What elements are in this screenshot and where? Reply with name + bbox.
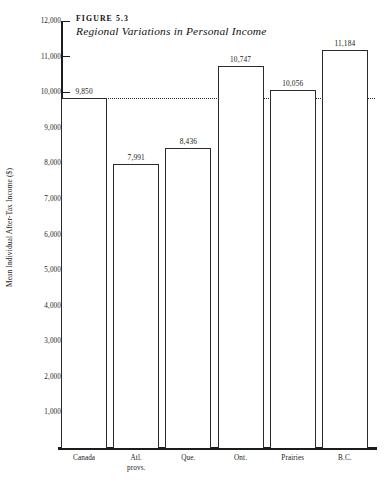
figure-number: FIGURE 5.3	[76, 14, 356, 23]
bar-value-label: 9,850	[49, 87, 119, 96]
bar	[165, 148, 211, 448]
figure-title: Regional Variations in Personal Income	[76, 25, 356, 37]
bar-value-label: 7,991	[101, 153, 171, 162]
y-axis-tick-label: 11,000	[41, 53, 61, 61]
x-axis-tick-label: Canada	[54, 454, 114, 464]
x-axis-tick-label: Prairies	[263, 454, 323, 464]
y-axis-tick-label: 8,000	[44, 159, 61, 167]
y-axis-tick-label: 7,000	[44, 195, 61, 203]
x-axis-tick-label: Que.	[158, 454, 218, 464]
bar-value-label: 11,184	[310, 39, 380, 48]
bar	[113, 164, 159, 448]
bar-value-label: 10,747	[206, 55, 276, 64]
bar	[322, 50, 368, 448]
x-axis-tick-label: Atl.provs.	[106, 454, 166, 473]
y-axis-tick-label: 12,000	[41, 17, 61, 25]
x-axis-tick-label: Ont.	[211, 454, 271, 464]
plot-area: 9,8507,9918,43610,74710,05611,184	[62, 21, 375, 448]
y-axis-tick-label: 6,000	[44, 231, 61, 239]
y-axis-tick-label: 4,000	[44, 302, 61, 310]
y-axis-tick-label: 9,000	[44, 124, 61, 132]
bar	[218, 66, 264, 448]
x-axis-tick-label: B.C.	[315, 454, 375, 464]
y-axis-tick-label: 2,000	[44, 373, 61, 381]
title-block: FIGURE 5.3 Regional Variations in Person…	[76, 14, 356, 37]
y-axis-tick-label: 1,000	[44, 408, 61, 416]
bar-value-label: 10,056	[258, 79, 328, 88]
y-axis-tick-label: 5,000	[44, 266, 61, 274]
bar-value-label: 8,436	[153, 137, 223, 146]
bar	[61, 98, 107, 448]
y-axis-tick-label: 3,000	[44, 337, 61, 345]
bar	[270, 90, 316, 448]
figure-container: Mean Individual After-Tax Income ($) 1,0…	[0, 0, 391, 485]
